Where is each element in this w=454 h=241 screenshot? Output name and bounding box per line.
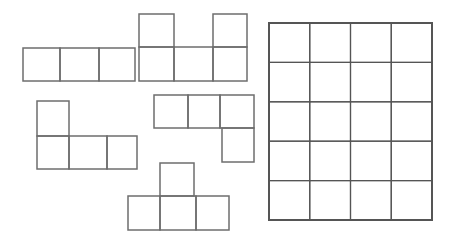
piece-i-tromino-row	[23, 48, 135, 81]
grid-cell	[391, 62, 432, 101]
piece-cell	[139, 14, 174, 47]
piece-l-tetromino	[37, 101, 137, 169]
grid-cell	[351, 181, 392, 220]
piece-cell	[69, 136, 107, 169]
grid-cell	[391, 141, 432, 180]
piece-u-pentomino	[139, 14, 247, 81]
grid-cell	[391, 23, 432, 62]
grid-cell	[310, 102, 351, 141]
piece-cell	[107, 136, 137, 169]
piece-cell	[213, 14, 247, 47]
grid-cell	[269, 102, 310, 141]
piece-cell	[23, 48, 60, 81]
grid-cell	[310, 62, 351, 101]
grid-cell	[391, 181, 432, 220]
piece-cell	[188, 95, 220, 128]
shapes-canvas	[0, 0, 454, 241]
piece-j-tetromino	[154, 95, 254, 162]
piece-cell	[37, 101, 69, 136]
piece-cell	[222, 128, 254, 162]
grid-cell	[269, 181, 310, 220]
grid-cell	[310, 23, 351, 62]
grid-cell	[310, 181, 351, 220]
piece-cell	[160, 196, 196, 230]
piece-cell	[196, 196, 229, 230]
piece-cell	[139, 47, 174, 81]
piece-cell	[174, 47, 213, 81]
piece-cell	[60, 48, 99, 81]
grid-cell	[351, 102, 392, 141]
grid-cell	[351, 141, 392, 180]
piece-cell	[37, 136, 69, 169]
grid-cell	[269, 23, 310, 62]
grid-cell	[269, 141, 310, 180]
piece-cell	[99, 48, 135, 81]
piece-cell	[213, 47, 247, 81]
grid-cell	[351, 23, 392, 62]
grid-cell	[391, 102, 432, 141]
piece-cell	[154, 95, 188, 128]
polyomino-pieces	[23, 14, 254, 230]
grid-cell	[310, 141, 351, 180]
piece-t-tetromino	[128, 163, 229, 230]
grid-cell	[269, 62, 310, 101]
grid-cell	[351, 62, 392, 101]
piece-cell	[160, 163, 194, 196]
piece-cell	[128, 196, 160, 230]
piece-cell	[220, 95, 254, 128]
target-grid	[269, 23, 432, 220]
